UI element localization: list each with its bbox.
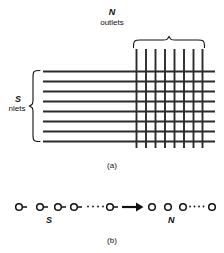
- panel-b-left-group-label: S: [46, 216, 52, 225]
- horizontal-inlet-lines: [43, 72, 215, 142]
- inlets-word-label: nlets: [0, 105, 34, 113]
- panel-b-left-ellipsis: [87, 206, 104, 208]
- node-with-stub: [55, 204, 66, 211]
- panel-b-right-group-label: N: [168, 216, 175, 225]
- node-with-stub: [16, 204, 27, 211]
- outlets-word-label: outlets: [0, 19, 224, 27]
- node-plain: [149, 204, 156, 211]
- panel-b-arrow-icon: [122, 203, 144, 212]
- vertical-outlet-lines: [137, 49, 203, 148]
- outlets-symbol-label: N: [0, 8, 224, 17]
- caption-panel-b: (b): [0, 237, 224, 245]
- panel-b-right-nodes: [149, 204, 216, 211]
- node-plain: [180, 204, 187, 211]
- caption-panel-a: (a): [0, 162, 224, 170]
- figure-root: N outlets S nlets (a) S N (b): [0, 0, 224, 253]
- node-with-stub: [71, 204, 82, 211]
- top-brace-n-outlets: [134, 37, 205, 48]
- node-plain: [165, 204, 172, 211]
- panel-b-right-ellipsis: [189, 206, 204, 208]
- node-with-stub: [107, 204, 118, 211]
- node-with-stub: [37, 204, 48, 211]
- figure-svg: [0, 0, 224, 253]
- node-plain: [209, 204, 216, 211]
